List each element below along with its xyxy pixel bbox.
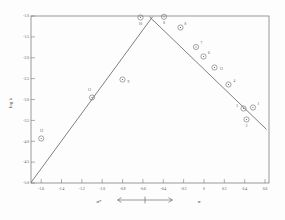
point-label: 3 bbox=[236, 104, 238, 108]
point-label: 4 bbox=[234, 79, 236, 83]
point-label: 7 bbox=[201, 41, 203, 45]
x-tick-label: -0.6 bbox=[140, 187, 146, 191]
y-tick-label: -4.5 bbox=[23, 160, 29, 164]
data-point bbox=[39, 136, 44, 141]
point-label: 6 bbox=[208, 51, 210, 55]
descending-fit-line bbox=[150, 17, 267, 130]
x-tick-label: -0.8 bbox=[120, 187, 126, 191]
data-point bbox=[212, 65, 217, 70]
point-label: 8 bbox=[185, 22, 187, 26]
data-point bbox=[244, 117, 249, 122]
point-label: 10 bbox=[139, 22, 143, 26]
x-tick-label: -1.6 bbox=[38, 187, 44, 191]
point-label: 12 bbox=[40, 129, 44, 133]
y-axis-title: log k bbox=[8, 97, 13, 108]
x-tick-label: -0.4 bbox=[160, 187, 166, 191]
data-point bbox=[161, 14, 166, 19]
data-point bbox=[120, 77, 125, 82]
point-label: 1 bbox=[258, 102, 260, 106]
data-point bbox=[250, 105, 255, 110]
ascending-fit-line bbox=[31, 17, 153, 183]
x-tick-label: 0.6 bbox=[263, 187, 268, 191]
data-point-labels: 12 11 9 10 8 8 7 6 13 4 3 1 2 bbox=[40, 21, 260, 133]
point-label: 9 bbox=[128, 80, 130, 84]
x-tick-label: -0.2 bbox=[181, 187, 187, 191]
y-axis-ticks bbox=[31, 16, 35, 183]
y-tick-label: -5.0 bbox=[23, 181, 29, 185]
sigma-axis-label: σ bbox=[198, 199, 201, 204]
range-arrow-icon bbox=[118, 197, 173, 204]
scatter-plot: -1.0 -1.5 -2.0 -2.5 -3.0 -3.5 -4.0 -4.5 … bbox=[0, 0, 285, 220]
point-label: 11 bbox=[88, 88, 92, 92]
data-point bbox=[226, 82, 231, 87]
data-point bbox=[201, 54, 206, 59]
point-label: 13 bbox=[220, 67, 224, 71]
data-point bbox=[193, 44, 198, 49]
data-point bbox=[178, 25, 183, 30]
x-tick-label: 0.2 bbox=[222, 187, 227, 191]
y-axis-tick-labels: -1.0 -1.5 -2.0 -2.5 -3.0 -3.5 -4.0 -4.5 … bbox=[23, 14, 29, 185]
x-axis-ticks bbox=[41, 179, 265, 183]
x-tick-label: 0.4 bbox=[242, 187, 247, 191]
x-tick-label: -1.4 bbox=[59, 187, 65, 191]
point-label: 8 bbox=[163, 21, 165, 25]
sigma-star-axis-label: σ* bbox=[96, 199, 102, 204]
y-tick-label: -2.5 bbox=[23, 77, 29, 81]
x-tick-label: -1.2 bbox=[79, 187, 85, 191]
y-tick-label: -4.0 bbox=[23, 140, 29, 144]
x-axis-tick-labels: -1.6 -1.4 -1.2 -1.0 -0.8 -0.6 -0.4 -0.2 … bbox=[38, 187, 267, 191]
y-tick-label: -2.0 bbox=[23, 56, 29, 60]
point-label: 2 bbox=[246, 124, 248, 128]
figure-container: -1.0 -1.5 -2.0 -2.5 -3.0 -3.5 -4.0 -4.5 … bbox=[0, 0, 285, 220]
plot-frame bbox=[31, 16, 269, 183]
x-tick-label: 0 bbox=[203, 187, 205, 191]
y-tick-label: -3.5 bbox=[23, 119, 29, 123]
y-tick-label: -1.5 bbox=[23, 35, 29, 39]
y-tick-label: -1.0 bbox=[23, 14, 29, 18]
data-points bbox=[39, 14, 256, 141]
y-tick-label: -3.0 bbox=[23, 98, 29, 102]
x-tick-label: -1.0 bbox=[99, 187, 105, 191]
